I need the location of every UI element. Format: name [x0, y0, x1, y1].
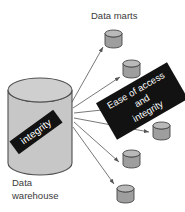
data-mart-cylinder-1 — [105, 30, 122, 48]
data-warehouse-label-line2: warehouse — [12, 189, 58, 202]
flow-arrow-1 — [72, 47, 103, 102]
data-mart-cylinder-5 — [117, 185, 134, 203]
data-marts-label: Data marts — [91, 9, 137, 22]
data-mart-cylinder-2 — [123, 60, 140, 78]
data-mart-cylinder-4 — [123, 150, 140, 168]
flow-arrow-6 — [73, 127, 114, 184]
data-warehouse-label-line1: Data — [12, 176, 58, 189]
data-mart-cylinder-3 — [153, 122, 170, 140]
data-warehouse-label: Data warehouse — [12, 176, 58, 202]
diagram-stage: Data marts Data warehouse integrity Ease… — [0, 0, 185, 212]
